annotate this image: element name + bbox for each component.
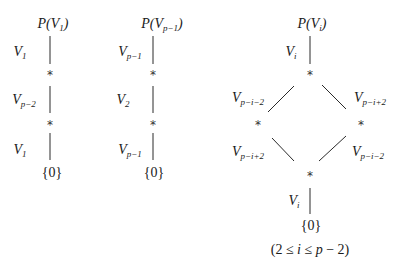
right-top-node: P(Vi) [298,17,327,31]
label-sub: i [294,51,297,61]
label-sub: 2 [125,99,130,109]
right-edge-bottom-label: Vi [288,194,299,208]
label-base: V [352,144,361,159]
label-base: V [232,90,241,105]
label-base: V [12,92,21,107]
edge-right-upper-right [322,85,346,109]
left-top-base: P(V [38,16,60,31]
middle-top-node: P(Vp−1) [141,17,183,31]
label-sub: i [297,200,300,210]
right-edge-lower-left-label: Vp−i+2 [232,145,264,159]
left-top-close: ) [64,16,69,31]
cond-mid: ≤ [301,242,316,257]
label-sub: p−1 [127,51,142,61]
right-star-left: * [255,119,261,131]
left-bottom-node: {0} [42,166,62,180]
edge-right-lower-left [272,138,294,161]
label-sub: 1 [22,51,27,61]
left-edge-2-label: Vp−2 [12,93,36,107]
label-base: V [354,90,363,105]
label-base: V [13,44,22,59]
right-bottom-node: {0} [301,219,321,233]
middle-edge-1-label: Vp−1 [118,45,142,59]
left-top-node: P(V1) [38,17,69,31]
left-star-1: * [47,69,53,81]
middle-top-close: ) [178,16,183,31]
index-range-condition: (2 ≤ i ≤ p − 2) [271,243,350,257]
label-base: V [116,92,125,107]
label-sub: p−i−2 [240,97,264,107]
label-sub: p−i−2 [360,151,384,161]
right-edge-upper-left-label: Vp−i−2 [232,91,264,105]
right-star-bottom: * [307,170,313,182]
right-star-top: * [307,69,313,81]
label-sub: p−i+2 [362,97,386,107]
middle-edge-3-label: Vp−1 [118,143,142,157]
lattice-edges [0,0,399,268]
edge-right-upper-left [268,86,294,112]
middle-star-1: * [150,69,156,81]
label-base: V [118,142,127,157]
middle-top-base: P(V [141,16,163,31]
label-base: V [13,142,22,157]
left-star-2: * [47,119,53,131]
right-top-base: P(V [298,16,320,31]
label-sub: p−1 [127,149,142,159]
right-edge-upper-right-label: Vp−i+2 [354,91,386,105]
cond-open: (2 ≤ [271,242,297,257]
subgroup-lattice-figure: P(V1) V1 * Vp−2 * V1 {0} P(Vp−1) Vp−1 * … [0,0,399,268]
cond-close: − 2) [323,242,350,257]
cond-var-p: p [316,242,323,257]
label-base: V [118,44,127,59]
label-sub: p−i+2 [240,151,264,161]
label-sub: p−2 [21,99,36,109]
label-base: V [288,193,297,208]
label-base: V [232,144,241,159]
right-top-close: ) [322,16,327,31]
right-edge-lower-right-label: Vp−i−2 [352,145,384,159]
middle-star-2: * [150,119,156,131]
right-edge-top-label: Vi [285,45,296,59]
middle-edge-2-label: V2 [116,93,129,107]
left-edge-1-label: V1 [13,45,26,59]
right-star-right: * [358,119,364,131]
label-sub: 1 [22,149,27,159]
label-base: V [285,44,294,59]
edge-right-lower-right [319,136,346,161]
middle-top-sub: p−1 [163,23,178,33]
left-edge-3-label: V1 [13,143,26,157]
middle-bottom-node: {0} [144,166,164,180]
